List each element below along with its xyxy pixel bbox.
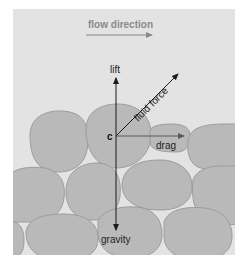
sediment-grain [30, 111, 88, 172]
sediment-grain [188, 124, 240, 173]
lift-label: lift [110, 64, 120, 75]
flow-direction-label: flow direction [88, 19, 153, 30]
sediment-force-diagram: flow direction lift fluid force drag gra… [0, 0, 247, 267]
sediment-grain [26, 214, 98, 260]
sediment-grain [98, 207, 162, 258]
sediment-grain [122, 160, 192, 210]
gravity-label: gravity [101, 234, 130, 245]
drag-label: drag [156, 140, 176, 151]
center-of-mass-label: c [107, 131, 113, 142]
sediment-grain [164, 208, 232, 260]
